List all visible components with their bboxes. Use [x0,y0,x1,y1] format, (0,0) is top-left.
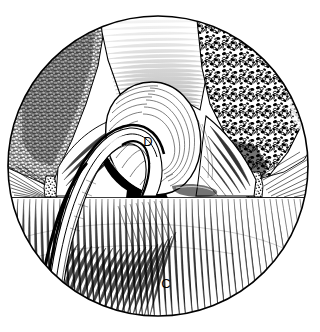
anatomical-illustration-svg: D C [0,0,320,332]
label-C: C [161,276,170,291]
label-D: D [143,134,152,149]
figure-root: D C [0,0,320,332]
